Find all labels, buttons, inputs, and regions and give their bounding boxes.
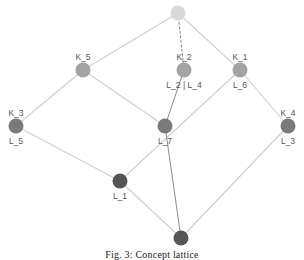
node-bottom-label: L_3: [281, 136, 295, 146]
edge-k5-l7: [83, 70, 165, 126]
node-circle: [174, 231, 189, 246]
node-top-label: K_1: [232, 52, 247, 62]
node-k5: K_5: [75, 52, 90, 78]
node-top-label: K_4: [280, 108, 295, 118]
node-top-label: K_2: [176, 52, 191, 62]
node-k3: K_3L_5: [8, 108, 23, 146]
edge-k4-bottom: [181, 126, 288, 238]
node-circle: [233, 63, 248, 78]
node-l1: L_1: [113, 174, 128, 202]
figure-caption: Fig. 3: Concept lattice: [0, 249, 304, 260]
node-l7: L_7: [158, 119, 173, 147]
node-circle: [281, 119, 296, 134]
node-circle: [113, 174, 128, 189]
edge-k2-l7: [165, 70, 184, 126]
lattice-edges: [16, 13, 288, 238]
lattice-nodes: K_5K_2L_2 | L_4K_1L_6K_3L_5L_7K_4L_3L_1: [8, 6, 295, 246]
edge-k3-l1: [16, 126, 120, 181]
node-top: [171, 6, 186, 21]
node-bottom-label: L_7: [158, 136, 172, 146]
node-circle: [171, 6, 186, 21]
edge-k5-k3: [16, 70, 83, 126]
node-k1: K_1L_6: [232, 52, 247, 90]
node-k4: K_4L_3: [280, 108, 295, 146]
node-bottom-label: L_1: [113, 191, 127, 201]
node-circle: [76, 63, 91, 78]
node-circle: [177, 63, 192, 78]
edge-l1-bottom: [120, 181, 181, 238]
node-bottom-label: L_2 | L_4: [166, 80, 202, 90]
node-top-label: K_5: [75, 52, 90, 62]
node-circle: [9, 119, 24, 134]
edge-top-k5: [83, 13, 178, 70]
node-bottom-label: L_5: [9, 136, 23, 146]
node-bottom-label: L_6: [233, 80, 247, 90]
node-top-label: K_3: [8, 108, 23, 118]
node-circle: [158, 119, 173, 134]
node-bottom: [174, 231, 189, 246]
node-k2: K_2L_2 | L_4: [166, 52, 202, 90]
